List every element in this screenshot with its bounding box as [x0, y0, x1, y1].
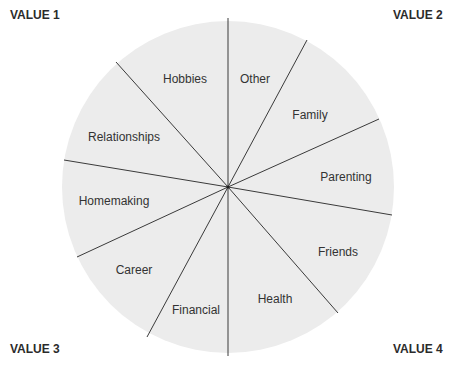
- segment-label-parenting: Parenting: [320, 170, 371, 184]
- segment-label-health: Health: [258, 292, 293, 306]
- life-balance-wheel: [0, 0, 455, 373]
- segment-label-relationships: Relationships: [88, 130, 160, 144]
- segment-label-career: Career: [116, 263, 153, 277]
- segment-label-financial: Financial: [172, 303, 220, 317]
- segment-label-family: Family: [292, 108, 327, 122]
- segment-label-hobbies: Hobbies: [163, 72, 207, 86]
- segment-label-homemaking: Homemaking: [79, 194, 150, 208]
- segment-label-other: Other: [240, 72, 270, 86]
- wheel-center-dot: [226, 185, 229, 188]
- segment-label-friends: Friends: [318, 245, 358, 259]
